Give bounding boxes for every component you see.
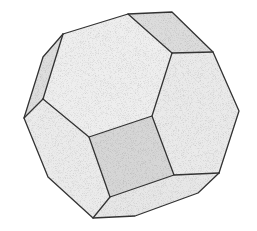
- truncated-octahedron-diagram: [0, 0, 257, 231]
- paper-grain: [24, 12, 239, 218]
